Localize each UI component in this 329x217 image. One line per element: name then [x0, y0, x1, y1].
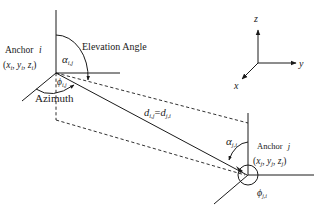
projection-line-lower	[56, 120, 245, 175]
x-axis-label: x	[233, 80, 239, 91]
anchor-i-coords: (xi, yi, zi)	[3, 60, 36, 71]
y-axis-label: y	[298, 58, 304, 69]
world-axes-legend: z y x	[233, 13, 304, 91]
elevation-angle-label: Elevation Angle	[82, 41, 147, 52]
anchor-i-title: Anchor i	[5, 45, 42, 55]
anchor-j-title: Anchor j	[257, 141, 291, 151]
alpha-ij-label: αi,j	[62, 53, 73, 66]
anchor-geometry-diagram: z y x Anchor i (xi, yi, zi) Elevation An…	[0, 0, 329, 217]
alpha-ji-label: αj,i	[226, 135, 237, 148]
azimuth-label: Azimuth	[35, 92, 74, 104]
distance-line	[56, 73, 247, 175]
z-axis-label: z	[253, 13, 258, 24]
anchor-j-coords: (xj, yj, zj)	[253, 156, 286, 167]
x-axis	[242, 63, 258, 79]
distance-label: di,j=dj,i	[144, 107, 171, 119]
anchor-j-diagonal-axis	[214, 175, 248, 204]
phi-ji-label: ϕj,i	[257, 187, 267, 199]
